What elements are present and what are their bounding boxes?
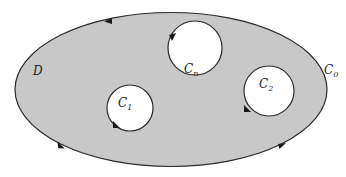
region-figure (0, 0, 346, 177)
label-cn: Cn (184, 63, 198, 78)
region-label-text: D (33, 64, 43, 78)
label-c0-sub: 0 (333, 70, 338, 79)
label-c2-sub: 2 (268, 84, 273, 93)
label-c0-base: C (324, 63, 333, 77)
label-cn-sub: n (193, 69, 198, 78)
diagram-canvas: D C0 Cn C1 C2 (0, 0, 346, 177)
label-c0: C0 (324, 64, 338, 79)
label-c1-base: C (118, 96, 127, 110)
label-c2-base: C (259, 77, 268, 91)
arrow-head-icon (278, 143, 286, 149)
label-c1-sub: 1 (127, 103, 132, 112)
region-label-d: D (33, 65, 43, 77)
label-c2: C2 (259, 78, 273, 93)
label-cn-base: C (184, 62, 193, 76)
label-c1: C1 (118, 97, 132, 112)
